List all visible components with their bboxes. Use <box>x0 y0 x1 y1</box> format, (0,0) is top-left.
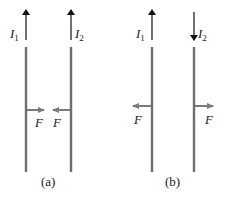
current-label-1: I1 <box>135 26 145 43</box>
panel-b: I1 I2 F F (b) <box>133 12 214 189</box>
wire-2: I2 <box>71 12 84 172</box>
wire-1: I1 <box>135 12 152 172</box>
current-label-2: I2 <box>197 26 207 43</box>
current-label-1: I1 <box>9 26 19 43</box>
panel-caption-b: (b) <box>165 174 180 189</box>
force-label-2: F <box>52 115 62 130</box>
parallel-wires-diagram: I1 I2 F F (a) I1 I2 F F (b <box>0 0 230 202</box>
panel-caption-a: (a) <box>41 174 55 189</box>
wire-1: I1 <box>9 12 26 172</box>
wire-2: I2 <box>194 12 207 172</box>
force-label-1: F <box>34 115 44 130</box>
panel-a: I1 I2 F F (a) <box>9 12 84 189</box>
force-label-2: F <box>204 112 214 127</box>
force-label-1: F <box>133 112 143 127</box>
current-label-2: I2 <box>74 26 84 43</box>
